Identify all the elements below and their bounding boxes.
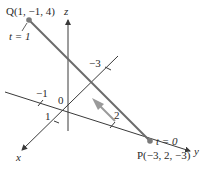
y-tick-neg1-label: −1 [36, 88, 48, 99]
point-q-label: Q(1, −1, 4) [6, 6, 55, 17]
point-p-param-label: t = 0 [156, 136, 177, 147]
point-p-label: P(−3, 2, −3) [137, 150, 190, 161]
point-q [26, 17, 32, 23]
y-axis-label: y [194, 146, 199, 157]
z-axis-label: z [64, 6, 68, 17]
x-tick-1-label: 1 [45, 111, 51, 122]
point-p [147, 138, 153, 144]
x-axis [22, 56, 118, 150]
diagram-canvas: Q(1, −1, 4) t = 1 z y x 0 −3 −1 1 2 t = … [0, 0, 201, 181]
x-axis-label: x [16, 152, 21, 163]
origin-label: 0 [58, 95, 64, 106]
y-tick-2-label: 2 [114, 110, 120, 121]
x-tick-neg3-label: −3 [89, 58, 101, 69]
point-q-param-label: t = 1 [9, 31, 30, 42]
line-segment-qp [29, 20, 150, 141]
